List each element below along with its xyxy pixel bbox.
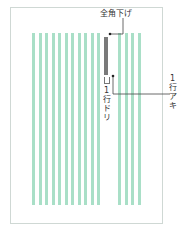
char: 行 [102,95,111,104]
char: ド [102,104,111,113]
char: キ [168,101,177,110]
line-drop-label: 1 行 ド リ [102,86,111,122]
line-space-label: 1 行 ア キ [168,74,177,110]
indent-label: 全角下げ [100,9,132,18]
char: 1 [168,74,177,83]
char: リ [102,113,111,122]
char: 行 [168,83,177,92]
char: ア [168,92,177,101]
char: 1 [102,86,111,95]
leader-lines [0,0,184,230]
